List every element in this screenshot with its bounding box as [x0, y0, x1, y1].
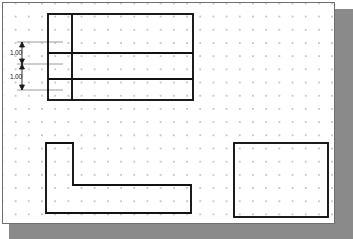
arrowhead-lower-top: [20, 64, 25, 69]
arrowhead-upper-top: [20, 42, 25, 47]
cad-drawing-screenshot: 1.00 1.00: [0, 0, 353, 239]
dimension-label-lower: 1.00: [10, 73, 22, 80]
top-divided-rectangle: [48, 14, 193, 100]
top-rectangle-outline: [48, 14, 193, 100]
drawing-vector-layer: [3, 3, 334, 223]
drawing-sheet[interactable]: 1.00 1.00: [2, 2, 335, 224]
dimension-extension-lines: [17, 42, 63, 90]
arrowhead-lower-bottom: [20, 85, 25, 90]
l-shape-polygon: [46, 143, 191, 213]
dimension-label-upper: 1.00: [10, 49, 22, 56]
bottom-right-rectangle: [234, 143, 328, 217]
